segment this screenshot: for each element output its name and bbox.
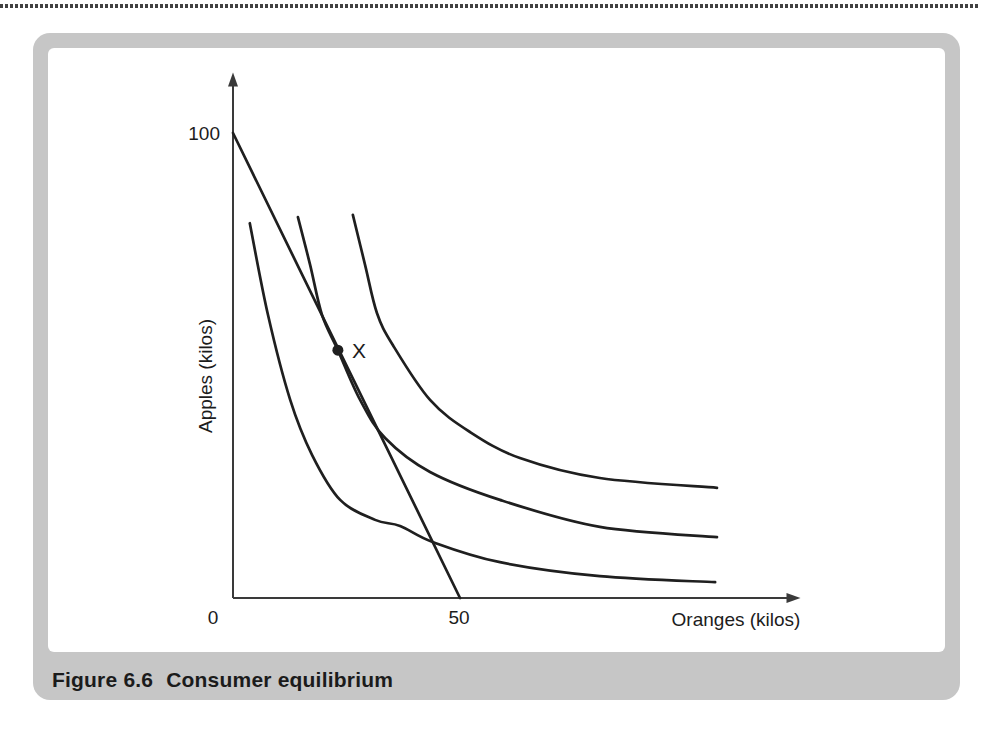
y-tick-label-100: 100: [188, 123, 220, 144]
page-top-dotted-rule: [0, 4, 978, 8]
x-tick-label-50: 50: [448, 607, 469, 628]
consumer-equilibrium-chart: 100 0 50 Oranges (kilos) Apples (kilos) …: [48, 48, 945, 652]
indifference-curve-2: [298, 217, 717, 537]
x-tick-label-0: 0: [208, 607, 219, 628]
equilibrium-point-label: X: [352, 339, 366, 362]
x-axis-title: Oranges (kilos): [672, 609, 801, 630]
y-axis-title: Apples (kilos): [195, 319, 216, 433]
figure-number: Figure 6.6: [52, 668, 153, 692]
indifference-curve-1: [250, 223, 715, 582]
book-page: 100 0 50 Oranges (kilos) Apples (kilos) …: [0, 0, 998, 746]
figure-title: Consumer equilibrium: [166, 668, 393, 692]
budget-line: [233, 133, 460, 598]
chart-lines: [228, 73, 801, 603]
equilibrium-point-dot: [332, 345, 343, 356]
indifference-curve-3: [353, 215, 717, 488]
figure-caption: Figure 6.6 Consumer equilibrium: [52, 660, 393, 700]
